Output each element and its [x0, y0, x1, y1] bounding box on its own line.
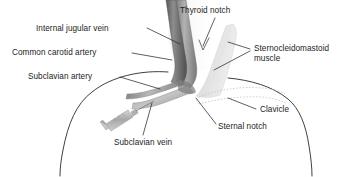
label-sternal-notch: Sternal notch — [218, 122, 267, 132]
label-internal-jugular-vein: Internal jugular vein — [36, 24, 109, 34]
leader-common-carotid-artery — [132, 53, 172, 60]
label-sternocleidomastoid-muscle: Sternocleidomastoid muscle — [254, 44, 340, 64]
label-subclavian-vein: Subclavian vein — [114, 138, 174, 148]
leader-clavicle — [228, 98, 256, 109]
label-clavicle: Clavicle — [260, 105, 289, 115]
label-thyroid-notch: Thyroid notch — [180, 6, 230, 16]
label-subclavian-artery: Subclavian artery — [28, 72, 92, 82]
syringe — [100, 101, 154, 131]
anatomical-figure: Internal jugular vein Common carotid art… — [0, 0, 360, 177]
label-common-carotid-artery: Common carotid artery — [12, 48, 96, 58]
leader-subclavian-artery — [120, 77, 160, 89]
